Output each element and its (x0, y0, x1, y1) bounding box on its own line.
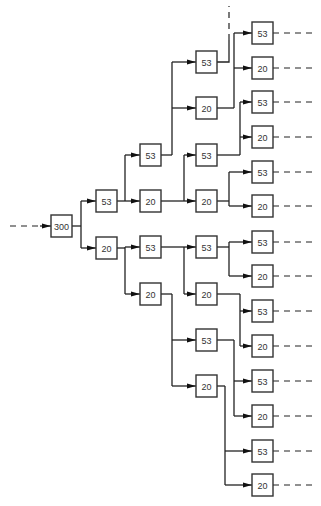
tree-node-box: 20 (252, 474, 273, 496)
tree-node-box: 53 (196, 236, 217, 258)
arrowhead-icon (87, 246, 96, 251)
tree-node-box: 20 (252, 195, 273, 217)
node-label: 53 (257, 377, 267, 387)
node-label: 53 (257, 168, 267, 178)
node-label: 53 (145, 151, 155, 161)
node-label: 20 (257, 342, 267, 352)
node-label: 53 (201, 243, 211, 253)
node-label: 53 (201, 151, 211, 161)
arrowhead-icon (187, 153, 196, 158)
arrowheads (42, 31, 252, 488)
arrowhead-icon (243, 344, 252, 349)
tree-nodes: 3005320532053205320532053205320532053205… (51, 22, 273, 496)
node-label: 20 (201, 104, 211, 114)
arrowhead-icon (187, 106, 196, 111)
node-label: 20 (145, 290, 155, 300)
arrowhead-icon (243, 135, 252, 140)
node-label: 53 (257, 29, 267, 39)
node-label: 20 (201, 197, 211, 207)
arrowhead-icon (243, 449, 252, 454)
tree-node-box: 53 (140, 144, 161, 166)
arrowhead-icon (131, 292, 140, 297)
arrowhead-icon (187, 338, 196, 343)
tree-node-box: 20 (252, 126, 273, 148)
tree-node-box: 53 (196, 144, 217, 166)
tree-node-box: 53 (96, 190, 117, 212)
tree-node-box: 20 (140, 190, 161, 212)
arrowhead-icon (243, 483, 252, 488)
tree-node-box: 53 (252, 370, 273, 392)
tree-node-box: 20 (196, 375, 217, 397)
arrowhead-icon (243, 204, 252, 209)
arrowhead-icon (243, 31, 252, 36)
tree-node-box: 53 (140, 236, 161, 258)
arrowhead-icon (42, 224, 51, 229)
node-label: 53 (201, 336, 211, 346)
tree-node-box: 53 (252, 231, 273, 253)
node-label: 20 (257, 202, 267, 212)
node-label: 20 (257, 481, 267, 491)
arrowhead-icon (187, 384, 196, 389)
node-label: 20 (101, 244, 111, 254)
tree-node-box: 53 (252, 161, 273, 183)
node-label: 53 (257, 98, 267, 108)
tree-node-box: 20 (252, 335, 273, 357)
tree-node-box: 53 (252, 440, 273, 462)
arrowhead-icon (243, 309, 252, 314)
tree-node-box: 20 (96, 237, 117, 259)
node-label: 53 (101, 197, 111, 207)
tree-node-box: 53 (196, 329, 217, 351)
tree-node-box: 20 (196, 283, 217, 305)
arrowhead-icon (131, 245, 140, 250)
arrowhead-icon (243, 170, 252, 175)
tree-node-box: 20 (196, 190, 217, 212)
node-label: 20 (257, 64, 267, 74)
node-label: 20 (145, 197, 155, 207)
arrowhead-icon (243, 274, 252, 279)
tree-node-box: 20 (252, 265, 273, 287)
connector (217, 40, 229, 62)
node-label: 20 (201, 382, 211, 392)
tree-node-box: 20 (252, 405, 273, 427)
arrowhead-icon (187, 60, 196, 65)
arrowhead-icon (243, 100, 252, 105)
arrowhead-icon (243, 240, 252, 245)
arrowhead-icon (87, 199, 96, 204)
node-label: 53 (201, 58, 211, 68)
arrowhead-icon (187, 292, 196, 297)
node-label: 20 (257, 133, 267, 143)
tree-node-box: 53 (196, 51, 217, 73)
tree-node-box: 53 (252, 91, 273, 113)
node-label: 53 (145, 243, 155, 253)
tree-node-box: 20 (196, 97, 217, 119)
tree-node-box: 20 (252, 57, 273, 79)
arrowhead-icon (243, 414, 252, 419)
node-label: 20 (201, 290, 211, 300)
node-label: 20 (257, 412, 267, 422)
arrowhead-icon (243, 379, 252, 384)
arrowhead-icon (131, 199, 140, 204)
arrowhead-icon (187, 245, 196, 250)
tree-node-box: 300 (51, 215, 72, 237)
tree-node-box: 53 (252, 22, 273, 44)
node-label: 53 (257, 238, 267, 248)
tree-node-box: 20 (140, 283, 161, 305)
tree-node-box: 53 (252, 300, 273, 322)
arrowhead-icon (187, 199, 196, 204)
node-label: 20 (257, 272, 267, 282)
node-label: 53 (257, 307, 267, 317)
tree-diagram: 3005320532053205320532053205320532053205… (0, 0, 321, 506)
node-label: 53 (257, 447, 267, 457)
arrowhead-icon (243, 66, 252, 71)
arrowhead-icon (131, 153, 140, 158)
node-label: 300 (54, 222, 69, 232)
